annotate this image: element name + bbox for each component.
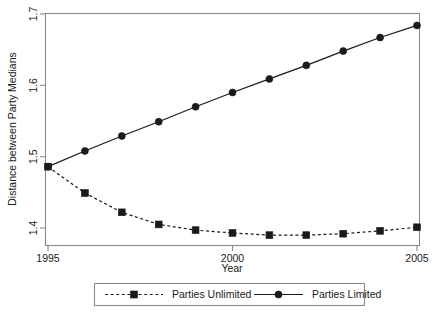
y-tick-label-1.6: 1.6 bbox=[27, 78, 39, 93]
y-axis-title: Distance between Party Medians bbox=[6, 52, 18, 206]
data-point-parties-unlimited-2004 bbox=[377, 227, 384, 234]
legend-swatch-marker-circle bbox=[275, 291, 282, 298]
data-point-parties-unlimited-2002 bbox=[303, 232, 310, 239]
data-point-parties-limited-2003 bbox=[340, 48, 347, 55]
chart-legend: Parties Unlimited Parties Limited bbox=[95, 284, 382, 306]
chart-figure: 1.41.51.61.7 199520002005 Year Distance … bbox=[0, 0, 439, 317]
data-point-parties-limited-1999 bbox=[192, 103, 199, 110]
x-tick-label-1995: 1995 bbox=[36, 252, 60, 264]
legend-label-parties-unlimited: Parties Unlimited bbox=[172, 288, 252, 300]
y-tick-label-1.4: 1.4 bbox=[27, 221, 39, 236]
x-tick-label-2005: 2005 bbox=[405, 252, 429, 264]
data-point-parties-unlimited-2000 bbox=[229, 230, 236, 237]
data-point-parties-limited-1996 bbox=[81, 147, 88, 154]
x-axis-title: Year bbox=[221, 262, 243, 274]
y-tick-label-1.7: 1.7 bbox=[27, 7, 39, 22]
data-point-parties-limited-2004 bbox=[377, 34, 384, 41]
data-point-parties-limited-1997 bbox=[118, 132, 125, 139]
data-point-parties-unlimited-1998 bbox=[155, 221, 162, 228]
data-point-parties-limited-2000 bbox=[229, 89, 236, 96]
data-point-parties-unlimited-2005 bbox=[414, 224, 421, 231]
data-point-parties-unlimited-1996 bbox=[82, 190, 89, 197]
legend-swatch-marker-square bbox=[131, 291, 138, 298]
distance-between-party-medians-line-chart: 1.41.51.61.7 199520002005 Year Distance … bbox=[0, 0, 439, 317]
data-point-parties-unlimited-2001 bbox=[266, 232, 273, 239]
data-point-parties-limited-2001 bbox=[266, 75, 273, 82]
data-point-parties-limited-1995 bbox=[45, 163, 52, 170]
data-point-parties-unlimited-2003 bbox=[340, 230, 347, 237]
data-point-parties-limited-2002 bbox=[303, 62, 310, 69]
data-point-parties-limited-2005 bbox=[414, 22, 421, 29]
data-point-parties-unlimited-1999 bbox=[192, 227, 199, 234]
y-tick-label-1.5: 1.5 bbox=[27, 149, 39, 164]
data-point-parties-limited-1998 bbox=[155, 118, 162, 125]
data-point-parties-unlimited-1997 bbox=[118, 209, 125, 216]
legend-label-parties-limited: Parties Limited bbox=[312, 288, 382, 300]
